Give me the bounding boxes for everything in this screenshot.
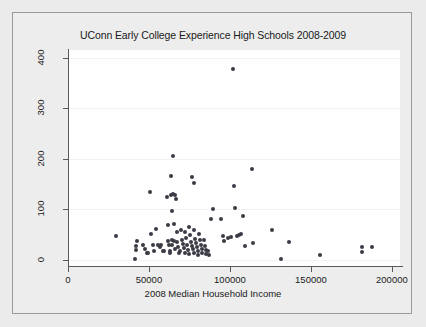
y-tick-label: 400 xyxy=(35,40,46,74)
x-tick-label: 0 xyxy=(65,274,70,285)
data-point xyxy=(250,167,254,171)
data-point xyxy=(229,235,233,239)
data-point xyxy=(168,251,172,255)
data-point xyxy=(202,238,206,242)
data-point xyxy=(197,232,201,236)
data-point xyxy=(187,252,191,256)
x-tick-label: 100000 xyxy=(214,274,246,285)
data-point xyxy=(243,244,247,248)
data-point xyxy=(169,174,173,178)
scatter-chart: UConn Early College Experience High Scho… xyxy=(13,13,413,315)
y-tick-label: 100 xyxy=(35,192,46,226)
x-tick-mark xyxy=(230,267,231,272)
data-point xyxy=(172,222,176,226)
data-point xyxy=(134,248,138,252)
data-point xyxy=(287,240,291,244)
data-point xyxy=(162,249,166,253)
x-tick-mark xyxy=(311,267,312,272)
data-point xyxy=(360,245,364,249)
gridline xyxy=(68,159,400,160)
y-tick-mark xyxy=(63,260,68,261)
x-tick-mark xyxy=(149,267,150,272)
data-point xyxy=(178,249,182,253)
data-point xyxy=(166,223,170,227)
data-point xyxy=(175,240,179,244)
data-point xyxy=(190,175,194,179)
data-point xyxy=(211,207,215,211)
figure-frame: UConn Early College Experience High Scho… xyxy=(12,12,412,314)
data-point xyxy=(174,197,178,201)
data-point xyxy=(318,253,322,257)
x-axis-title: 2008 Median Household Income xyxy=(13,288,413,299)
gridline xyxy=(68,108,400,109)
x-tick-mark xyxy=(392,267,393,272)
data-point xyxy=(187,225,191,229)
data-point xyxy=(170,209,174,213)
data-point xyxy=(148,190,152,194)
data-point xyxy=(183,230,187,234)
y-tick-label: 0 xyxy=(35,242,46,276)
data-point xyxy=(185,243,189,247)
data-point xyxy=(192,251,196,255)
chart-title: UConn Early College Experience High Scho… xyxy=(13,29,413,41)
data-point xyxy=(114,234,118,238)
data-point xyxy=(251,241,255,245)
data-point xyxy=(171,154,175,158)
data-point xyxy=(134,244,138,248)
gridline xyxy=(68,58,400,59)
x-tick-label: 200000 xyxy=(376,274,408,285)
data-point xyxy=(154,227,158,231)
data-point xyxy=(159,243,163,247)
data-point xyxy=(192,181,196,185)
data-point xyxy=(149,232,153,236)
data-point xyxy=(270,228,274,232)
data-point xyxy=(239,232,243,236)
data-point xyxy=(360,250,364,254)
y-tick-mark xyxy=(63,209,68,210)
data-point xyxy=(207,253,211,257)
x-tick-label: 150000 xyxy=(295,274,327,285)
data-point xyxy=(146,251,150,255)
gridline xyxy=(68,260,400,261)
y-tick-mark xyxy=(63,108,68,109)
y-tick-mark xyxy=(63,58,68,59)
data-point xyxy=(165,195,169,199)
y-tick-label: 300 xyxy=(35,91,46,125)
data-point xyxy=(152,249,156,253)
data-point xyxy=(192,228,196,232)
plot-panel xyxy=(68,50,400,266)
data-point xyxy=(232,184,236,188)
data-point xyxy=(188,233,192,237)
data-point xyxy=(221,234,225,238)
data-point xyxy=(370,245,374,249)
data-point xyxy=(279,257,283,261)
y-tick-label: 200 xyxy=(35,141,46,175)
x-tick-label: 50000 xyxy=(136,274,162,285)
data-point xyxy=(231,67,235,71)
y-tick-mark xyxy=(63,159,68,160)
data-point xyxy=(209,217,213,221)
y-axis-line xyxy=(68,49,69,267)
x-axis-line xyxy=(68,266,403,267)
data-point xyxy=(175,230,179,234)
data-point xyxy=(219,217,223,221)
data-point xyxy=(151,243,155,247)
data-point xyxy=(135,239,139,243)
data-point xyxy=(241,214,245,218)
x-tick-mark xyxy=(68,267,69,272)
